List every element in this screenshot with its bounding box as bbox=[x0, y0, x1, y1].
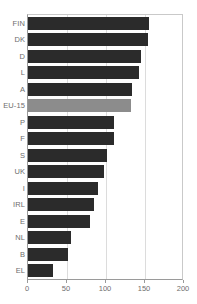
category-label-f: F bbox=[0, 132, 25, 145]
x-tick-label-100: 100 bbox=[90, 283, 120, 295]
bar-d[interactable] bbox=[28, 50, 141, 63]
bar-irl[interactable] bbox=[28, 198, 94, 211]
category-label-d: D bbox=[0, 50, 25, 63]
bar-dk[interactable] bbox=[28, 33, 148, 46]
category-label-l: L bbox=[0, 66, 25, 79]
category-label-b: B bbox=[0, 248, 25, 261]
category-label-nl: NL bbox=[0, 231, 25, 244]
category-axis-labels: FINDKDLAEU-15PFSUKIIRLENLBEL bbox=[0, 15, 25, 280]
category-label-i: I bbox=[0, 182, 25, 195]
bar-uk[interactable] bbox=[28, 165, 104, 178]
bar-el[interactable] bbox=[28, 264, 53, 277]
bar-chart: FINDKDLAEU-15PFSUKIIRLENLBEL 05010015020… bbox=[0, 0, 197, 304]
category-label-p: P bbox=[0, 116, 25, 129]
bar-l[interactable] bbox=[28, 66, 139, 79]
bar-f[interactable] bbox=[28, 132, 114, 145]
bar-fin[interactable] bbox=[28, 17, 149, 30]
category-label-eu-15: EU-15 bbox=[0, 99, 25, 112]
bar-eu-15[interactable] bbox=[28, 99, 131, 112]
category-label-irl: IRL bbox=[0, 198, 25, 211]
bar-e[interactable] bbox=[28, 215, 90, 228]
bar-b[interactable] bbox=[28, 248, 68, 261]
category-label-s: S bbox=[0, 149, 25, 162]
x-tick-label-0: 0 bbox=[12, 283, 42, 295]
category-label-e: E bbox=[0, 215, 25, 228]
bar-nl[interactable] bbox=[28, 231, 71, 244]
x-tick-label-50: 50 bbox=[51, 283, 81, 295]
bar-a[interactable] bbox=[28, 83, 132, 96]
category-label-uk: UK bbox=[0, 165, 25, 178]
x-tick-label-150: 150 bbox=[129, 283, 159, 295]
x-axis-tick-labels: 050100150200 bbox=[0, 283, 197, 297]
bar-s[interactable] bbox=[28, 149, 107, 162]
x-tick-label-200: 200 bbox=[168, 283, 197, 295]
bar-p[interactable] bbox=[28, 116, 114, 129]
bar-i[interactable] bbox=[28, 182, 98, 195]
category-label-el: EL bbox=[0, 264, 25, 277]
category-label-dk: DK bbox=[0, 33, 25, 46]
category-label-fin: FIN bbox=[0, 17, 25, 30]
bars-layer bbox=[28, 15, 183, 280]
category-label-a: A bbox=[0, 83, 25, 96]
